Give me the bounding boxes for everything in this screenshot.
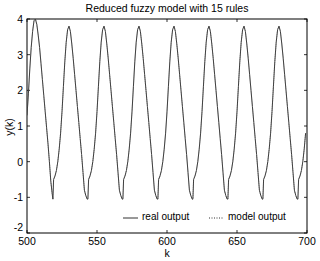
series-model-output xyxy=(27,19,306,199)
x-tick-label: 550 xyxy=(88,235,106,247)
x-tick-label: 700 xyxy=(298,235,316,247)
x-tick-label: 650 xyxy=(228,235,246,247)
y-tick-label: 3 xyxy=(17,49,23,61)
y-tick-label: 0 xyxy=(17,156,23,168)
series-real-output xyxy=(27,19,306,199)
legend-real-output: real output xyxy=(142,211,189,222)
y-tick-label: -2 xyxy=(14,221,23,233)
y-tick-label: -1 xyxy=(14,191,23,203)
chart-title: Reduced fuzzy model with 15 rules xyxy=(86,2,249,14)
x-tick-label: 600 xyxy=(158,235,176,247)
x-tick-label: 500 xyxy=(18,235,36,247)
plot-frame xyxy=(27,19,307,233)
chart: Reduced fuzzy model with 15 rules -2-101… xyxy=(0,0,320,261)
y-tick-label: 2 xyxy=(17,84,23,96)
y-tick-label: 1 xyxy=(17,120,23,132)
y-axis-label: y(k) xyxy=(3,118,15,136)
x-axis-label: k xyxy=(164,247,170,259)
legend-model-output: model output xyxy=(228,211,286,222)
y-tick-label: 4 xyxy=(17,13,23,25)
y-axis-ticks: -2-101234 xyxy=(14,13,307,233)
legend: real output model output xyxy=(123,211,286,222)
